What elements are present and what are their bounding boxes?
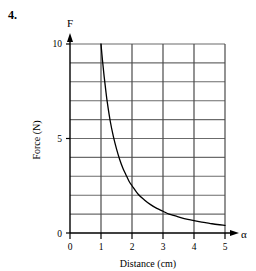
xtick-label-3: 3 [161,242,166,252]
y-axis-title: Force (N) [31,120,43,159]
x-axis-title: Distance (cm) [120,258,176,270]
xtick-label-4: 4 [192,242,197,252]
xtick-label-1: 1 [99,242,104,252]
xtick-label-5: 5 [223,242,228,252]
xtick-label-2: 2 [130,242,135,252]
force-distance-chart: 10 5 0 0 1 2 3 4 5 F α Distance (cm) For… [0,0,256,271]
ytick-label-0: 0 [57,229,62,239]
ytick-label-5: 5 [57,134,62,144]
x-axis-arrowhead [230,230,239,236]
xtick-label-0: 0 [68,242,73,252]
x-axis-ticks [70,233,225,239]
y-axis-symbol: F [67,17,73,29]
x-axis-symbol: α [241,228,247,240]
ytick-label-10: 10 [53,39,63,49]
y-axis-arrowhead [67,33,73,42]
figure-container: 4. [0,0,256,271]
